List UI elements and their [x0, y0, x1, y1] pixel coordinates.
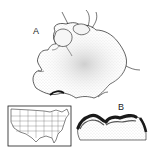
- inset-us-map: [8, 106, 71, 146]
- panel-a-thallus: [33, 10, 140, 98]
- panel-a-label: A: [33, 26, 39, 36]
- figure-canvas: A B: [0, 0, 154, 159]
- panel-b-label: B: [118, 102, 124, 112]
- panel-b-cross-section: [78, 115, 146, 140]
